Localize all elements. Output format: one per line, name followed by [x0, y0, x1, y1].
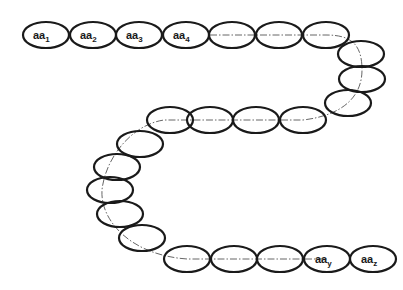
residue	[87, 177, 133, 203]
residue	[257, 246, 303, 272]
residue	[211, 246, 257, 272]
residue	[338, 41, 384, 67]
residue	[325, 90, 371, 116]
residue	[256, 22, 302, 48]
residue-aa4: aa4	[163, 22, 209, 48]
residue-aay: aay	[304, 246, 350, 272]
residue	[97, 201, 143, 227]
residue	[339, 66, 385, 92]
residue-aa1: aa1	[23, 22, 69, 48]
residue	[233, 107, 279, 133]
residue-aa2: aa2	[70, 22, 116, 48]
residue	[303, 22, 349, 48]
residue	[94, 154, 140, 180]
residue	[280, 107, 326, 133]
peptide-chain-diagram: aa1 aa2 aa3 aa4 aay aaz	[0, 0, 403, 290]
residue-aa3: aa3	[116, 22, 162, 48]
residue-aaz: aaz	[350, 246, 396, 272]
residue	[147, 107, 193, 133]
residue	[119, 225, 165, 251]
residue	[209, 22, 255, 48]
residue	[117, 131, 163, 157]
residue	[164, 246, 210, 272]
